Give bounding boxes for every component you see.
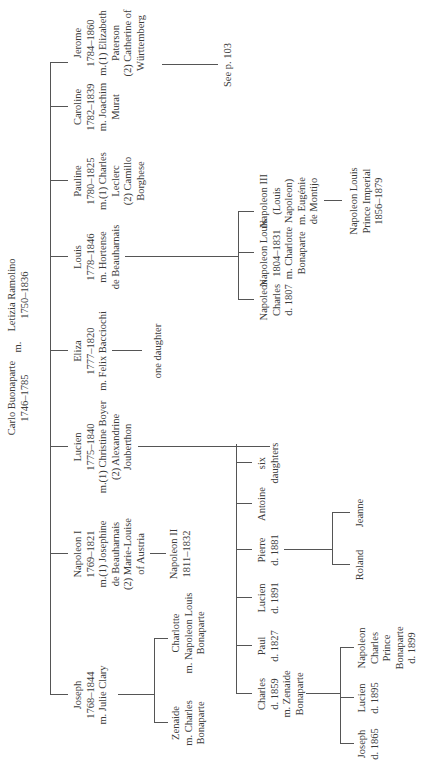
person-six-daughters: sixdaughters [256, 443, 281, 484]
eliza-descent-line [112, 350, 142, 351]
jerome-descent-line [162, 64, 218, 65]
person-joseph-1865: Josephd. 1865 [356, 728, 381, 760]
louis-children-bracket [238, 212, 239, 300]
tick-roland [332, 564, 350, 565]
person-lucien-jr: Luciend. 1891 [256, 582, 281, 614]
tick-zenaide [154, 722, 168, 723]
tick-joseph-jr [340, 743, 354, 744]
tick-paul [236, 645, 252, 646]
father-node: Carlo Buonaparte 1746–1785 [6, 361, 31, 435]
mother-dates: 1750–1836 [19, 258, 32, 331]
tick-napoleon-charles-1807 [238, 299, 254, 300]
mother-node: Letizia Ramolino 1750–1836 [6, 258, 31, 331]
person-napoleon-charles-prince: NapoleonCharlesPrinceBonaparted. 1899 [356, 626, 419, 669]
tick-charlotte [154, 638, 168, 639]
person-roland: Roland [354, 550, 367, 580]
louis-descent-line [125, 256, 238, 257]
person-paul: Pauld. 1827 [256, 630, 281, 662]
charles-children-bracket [340, 648, 341, 744]
napoleon3-descent-line [324, 200, 342, 201]
person-louis: Louis1778–1846m. Hortensede Beauharnais [72, 225, 122, 289]
tick-napoleon-louis [238, 252, 254, 253]
tick-lucien [50, 446, 68, 447]
tick-napoleon1 [50, 553, 68, 554]
person-charles: Charlesd. 1859m. ZenaideBonaparte [256, 670, 306, 717]
person-antoine: Antoine [256, 487, 269, 521]
father-name: Carlo Buonaparte [6, 361, 19, 435]
mother-name: Letizia Ramolino [6, 258, 19, 331]
person-lucien-1895: Luciend. 1895 [356, 682, 381, 714]
person-prince-imperial: Napoleon LouisPrince Imperial1856–1879 [348, 167, 386, 234]
person-charlotte: Charlottem. Napoleon LouisBonaparte [170, 593, 208, 674]
pierre-descent-line [284, 549, 332, 550]
sibling-bracket-line [50, 62, 51, 695]
tick-pauline [50, 180, 68, 181]
person-eliza: Eliza1777–1820m. Felix Bacciochi [72, 311, 110, 391]
tick-eliza [50, 350, 68, 351]
lucien-children-bracket [236, 444, 237, 694]
napoleon1-descent-line [150, 553, 166, 554]
tick-charles [236, 693, 252, 694]
person-pauline: Pauline1780–1825m.(1) CharlesLeclerc(2) … [72, 152, 148, 210]
joseph-children-bracket [154, 639, 155, 723]
person-napoleon-ii: Napoleon II1811–1832 [168, 529, 193, 579]
person-pierre: Pierred. 1881 [256, 534, 281, 566]
tick-louis [50, 256, 68, 257]
person-caroline: Caroline1782–1839m. JoachimMurat [72, 83, 122, 131]
person-jerome: Jerome1784–1860m.(1) ElizabethPaterson(2… [72, 9, 148, 76]
tick-pierre [236, 549, 252, 550]
tick-jeanne [332, 512, 350, 513]
person-one-daughter: one daughter [152, 324, 165, 379]
see-page-link[interactable]: See p. 103 [222, 43, 235, 87]
tick-lucien-1895 [340, 697, 354, 698]
person-napoleon-i: Napoleon I1769–1821m.(1) Josephinede Bea… [72, 518, 148, 590]
tick-antoine [236, 503, 252, 504]
tick-lucien-jr [236, 597, 252, 598]
father-dates: 1746–1785 [19, 361, 32, 435]
tick-six-daughters [236, 462, 252, 463]
pierre-children-bracket [332, 513, 333, 565]
person-lucien: Lucien1775–1840m.(1) Christine Boyer(2) … [72, 401, 135, 493]
jerome-reference[interactable]: See p. 103 [222, 43, 235, 87]
person-napoleon-louis: Napoleon Louis1804–1831m. CharlotteBonap… [258, 219, 308, 286]
tick-napoleon-charles [340, 647, 354, 648]
person-napoleon-iii: Napoleon III(LouisNapoleon)m. Eugéniede … [258, 174, 321, 228]
tick-napoleon-iii [238, 211, 254, 212]
person-joseph: Joseph1768–1844m. Julie Clary [72, 665, 110, 724]
marriage-text: m. [12, 342, 25, 353]
marriage-label: m. [12, 342, 25, 353]
family-tree-diagram: Carlo Buonaparte 1746–1785 m. Letizia Ra… [0, 0, 437, 783]
tick-jerome [50, 62, 68, 63]
charles-descent-line [306, 693, 340, 694]
lucien-descent-line [138, 446, 270, 447]
person-jeanne: Jeanne [354, 499, 367, 528]
person-zenaide: Zenaidem. CharlesBonaparte [170, 700, 208, 746]
tick-joseph [50, 694, 68, 695]
tick-caroline [50, 106, 68, 107]
joseph-descent-line [118, 694, 154, 695]
